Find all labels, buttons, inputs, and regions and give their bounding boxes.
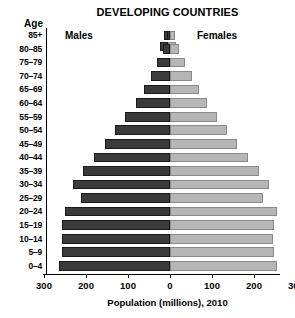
bar-male-15–19 [62,220,170,230]
pyramid-row [47,43,287,57]
bar-female-55–59 [170,112,217,122]
plot-area [47,29,287,273]
bar-male-80–85 [163,44,170,54]
pyramid-row [47,232,287,246]
bar-female-50–54 [170,125,227,135]
bar-male-25–29 [81,193,170,203]
bar-male-70–74 [151,71,170,81]
bar-female-0–4 [170,261,277,271]
pyramid-row [47,246,287,260]
pyramid-row [47,83,287,97]
bar-male-5–9 [62,247,170,257]
age-label-65–69: 65–69 [0,84,42,94]
age-label-80–85: 80–85 [0,44,42,54]
age-label-15–19: 15–19 [0,220,42,230]
age-label-0–4: 0–4 [0,261,42,271]
pyramid-row [47,219,287,233]
bar-female-60–64 [170,98,207,108]
x-tick-label-3: 0 [155,280,185,291]
x-tick-label-1: 200 [71,280,101,291]
bar-male-55–59 [125,112,170,122]
age-label-75–79: 75–79 [0,57,42,67]
bar-male-0–4 [59,261,170,271]
x-tick-0 [44,274,45,278]
age-label-60–64: 60–64 [0,98,42,108]
x-tick-5 [254,274,255,278]
bar-male-35–39 [83,166,170,176]
bar-female-30–34 [170,180,269,190]
age-label-45–49: 45–49 [0,139,42,149]
pyramid-row [47,165,287,179]
age-label-10–14: 10–14 [0,234,42,244]
x-tick-2 [128,274,129,278]
pyramid-row [47,259,287,273]
bar-female-15–19 [170,220,274,230]
bar-female-5–9 [170,247,274,257]
x-tick-4 [212,274,213,278]
x-tick-label-0: 300 [29,280,59,291]
bar-female-80–85 [170,44,179,54]
pyramid-row [47,29,287,43]
x-axis-line [43,274,280,275]
bar-male-45–49 [105,139,170,149]
chart-title: DEVELOPING COUNTRIES [45,6,290,18]
age-label-25–29: 25–29 [0,193,42,203]
age-label-5–9: 5–9 [0,247,42,257]
x-tick-label-4: 100 [197,280,227,291]
bar-male-20–24 [65,207,170,217]
bar-male-40–44 [94,153,170,163]
bar-female-75–79 [170,58,185,68]
pyramid-row [47,151,287,165]
bar-female-35–39 [170,166,259,176]
bar-male-50–54 [115,125,170,135]
x-tick-label-5: 200 [239,280,269,291]
age-label-30–34: 30–34 [0,179,42,189]
population-pyramid-chart: DEVELOPING COUNTRIES Age Males Females 8… [0,0,295,318]
bar-male-75–79 [157,58,170,68]
age-label-20–24: 20–24 [0,206,42,216]
x-tick-label-2: 100 [113,280,143,291]
bar-female-40–44 [170,153,248,163]
bar-female-45–49 [170,139,237,149]
bar-male-60–64 [136,98,170,108]
pyramid-row [47,124,287,138]
age-label-35–39: 35–39 [0,166,42,176]
age-label-50–54: 50–54 [0,125,42,135]
pyramid-row [47,97,287,111]
bar-female-85+ [170,31,175,41]
y-axis-title: Age [3,18,43,29]
age-label-70–74: 70–74 [0,71,42,81]
pyramid-row [47,192,287,206]
bar-male-10–14 [62,234,170,244]
bar-male-65–69 [144,85,170,95]
age-label-55–59: 55–59 [0,112,42,122]
age-label-40–44: 40–44 [0,152,42,162]
x-tick-label-6: 300 [281,280,295,291]
pyramid-row [47,110,287,124]
pyramid-row [47,137,287,151]
x-tick-3 [170,274,171,278]
pyramid-row [47,178,287,192]
age-label-85+: 85+ [0,30,42,40]
bar-female-20–24 [170,207,277,217]
pyramid-row [47,205,287,219]
x-axis-title: Population (millions), 2010 [45,297,290,308]
bar-female-65–69 [170,85,199,95]
pyramid-row [47,56,287,70]
x-tick-1 [86,274,87,278]
bar-female-10–14 [170,234,273,244]
bar-male-30–34 [73,180,170,190]
bar-female-25–29 [170,193,263,203]
bar-female-70–74 [170,71,192,81]
pyramid-row [47,70,287,84]
